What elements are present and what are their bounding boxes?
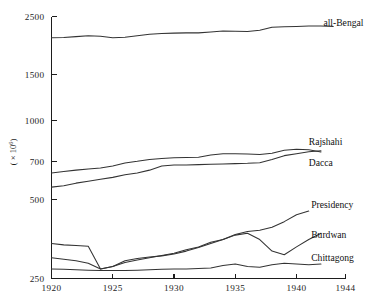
line-chart: 250500700100015002500 192019251930193519… <box>0 0 374 304</box>
series-label-rajshahi: Rajshahi <box>309 136 343 147</box>
y-tick-label: 1500 <box>25 70 45 80</box>
series-label-burdwan: Burdwan <box>311 229 346 240</box>
y-tick-label: 1000 <box>25 116 45 126</box>
x-tick-label: 1925 <box>103 283 123 293</box>
chart-container: 250500700100015002500 192019251930193519… <box>0 0 374 304</box>
x-tick-label: 1940 <box>287 283 307 293</box>
series-line-rajshahi <box>52 149 322 173</box>
x-tick-label: 1920 <box>42 283 62 293</box>
y-axis-title: ( × 106) <box>7 139 18 166</box>
y-tick-label: 2500 <box>25 12 45 22</box>
series-label-dacca: Dacca <box>309 157 334 168</box>
y-axis-title-text: ( × 106) <box>7 139 18 166</box>
series-labels: all-BengalRajshahiDaccaPresidencyBurdwan… <box>309 17 364 263</box>
series-lines <box>52 26 334 271</box>
series-label-presidency: Presidency <box>311 199 353 210</box>
series-line-all-bengal <box>52 26 334 38</box>
y-tick-label: 700 <box>30 157 45 167</box>
series-line-presidency <box>52 211 309 269</box>
x-tick-label: 1935 <box>225 283 245 293</box>
y-tick-label: 500 <box>30 195 45 205</box>
x-tick-label: 1944 <box>336 283 356 293</box>
series-label-chittagong: Chittagong <box>311 252 354 263</box>
series-line-chittagong <box>52 263 322 270</box>
x-axis-ticks: 192019251930193519401944 <box>42 274 356 293</box>
x-tick-label: 1930 <box>164 283 184 293</box>
series-label-all-bengal: all-Bengal <box>323 17 363 28</box>
